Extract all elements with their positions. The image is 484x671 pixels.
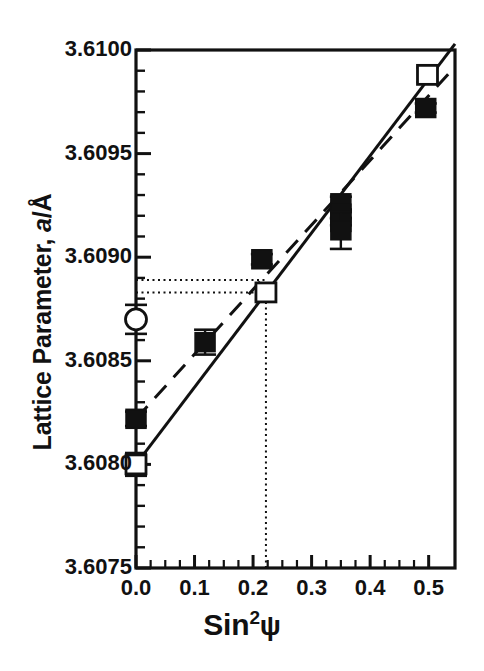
solid-fit-line	[136, 44, 455, 465]
data-point-open-square[interactable]	[417, 65, 437, 84]
data-point-filled-square[interactable]	[126, 409, 146, 428]
y-tick-label: 3.6085	[65, 347, 132, 373]
y-axis-title: Lattice Parameter, a/Å	[28, 194, 57, 451]
data-point-open-square[interactable]	[256, 283, 276, 302]
y-axis-title-unit: /Å	[28, 194, 56, 219]
data-point-filled-square[interactable]	[416, 99, 436, 118]
y-axis-title-main: Lattice Parameter,	[28, 232, 56, 451]
data-point-filled-square[interactable]	[331, 221, 351, 240]
y-tick-label: 3.6090	[65, 243, 132, 269]
data-point-open-circle[interactable]	[126, 309, 147, 330]
plot-frame	[136, 50, 455, 568]
x-axis-title-exponent: 2	[249, 607, 259, 628]
data-point-filled-square[interactable]	[252, 250, 272, 269]
x-axis-title-base: Sin	[203, 608, 249, 641]
y-tick-label: 3.6080	[65, 450, 132, 476]
dashed-fit-line	[136, 67, 455, 419]
y-axis-title-symbol: a	[28, 218, 56, 232]
x-axis-title-wrapper: Sin2ψ	[0, 608, 484, 642]
chart-figure: Lattice Parameter, a/Å Sin2ψ 3.61003.609…	[0, 0, 484, 671]
y-tick-label: 3.6100	[65, 36, 132, 62]
y-axis-title-wrapper: Lattice Parameter, a/Å	[25, 112, 59, 532]
x-tick-label: 0.5	[389, 575, 469, 601]
x-axis-title-psi: ψ	[260, 610, 281, 641]
y-tick-label: 3.6095	[65, 140, 132, 166]
x-axis-title: Sin2ψ	[203, 608, 280, 642]
data-point-filled-square[interactable]	[195, 333, 215, 352]
